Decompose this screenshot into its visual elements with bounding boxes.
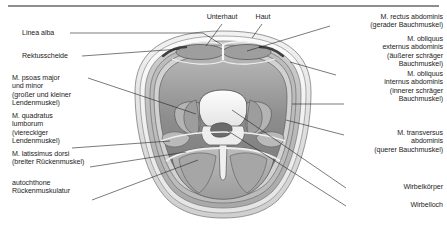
label-m-rectus-abdominis: M. rectus abdominis (gerader Bauchmuskel… bbox=[303, 13, 443, 30]
label-rektusscheide: Rektusscheide bbox=[22, 52, 68, 60]
label-m-transversus-abdominis: M. transversus abdominis (querer Bauchmu… bbox=[303, 129, 443, 154]
label-m-quadratus-lumborum: M. quadratus lumborum (viereckiger Lende… bbox=[12, 112, 60, 146]
label-linea-alba: Linea alba bbox=[22, 29, 54, 37]
vertebral-foramen bbox=[211, 123, 232, 137]
label-wirbelkoerper: Wirbelkörper bbox=[303, 183, 443, 191]
label-m-psoas-major-minor: M. psoas major und minor (großer und kle… bbox=[12, 74, 71, 108]
label-m-latissimus-dorsi: M. latissimus dorsi (breiter Rückenmuske… bbox=[12, 150, 84, 167]
label-autochthone-rueckenmuskulatur: autochthone Rückenmuskulatur bbox=[12, 179, 70, 196]
label-haut: Haut bbox=[242, 13, 284, 21]
spinous-process bbox=[219, 144, 227, 180]
label-wirbelloch: Wirbelloch bbox=[303, 201, 443, 209]
body-outline-group bbox=[135, 31, 311, 218]
label-m-obliquus-internus: M. obliquus internus abdominis (innerer … bbox=[303, 70, 443, 104]
label-m-obliquus-externus: M. obliquus externus abdominis (äußerer … bbox=[303, 35, 443, 69]
